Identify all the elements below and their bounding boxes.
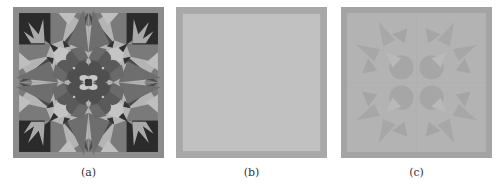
panel-a-pattern-image xyxy=(13,7,164,158)
uniform-gray-square xyxy=(176,7,327,158)
faint-kaleidoscope-pattern xyxy=(341,7,492,158)
panel-c-faint-pattern-image xyxy=(341,7,492,158)
caption-c: (c) xyxy=(341,165,492,181)
caption-b: (b) xyxy=(176,165,327,181)
kaleidoscope-pattern xyxy=(13,7,164,158)
panel-b-uniform-image xyxy=(176,7,327,158)
caption-a: (a) xyxy=(13,165,164,181)
